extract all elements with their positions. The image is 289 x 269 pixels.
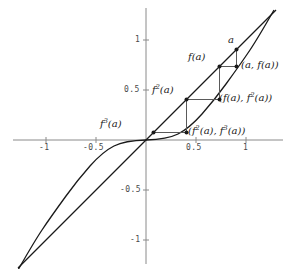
label-f-a: f(a) bbox=[188, 52, 205, 62]
point-a-f-a bbox=[235, 65, 239, 69]
y-tick-label-1: 1 bbox=[135, 36, 140, 44]
label-pair-f-a-close: (a)) bbox=[255, 92, 273, 103]
point-f-a-on-diagonal bbox=[218, 65, 222, 69]
y-tick-label-neg0-5: -0.5 bbox=[120, 186, 141, 194]
label-pair-f2-a-open: (f bbox=[188, 125, 196, 136]
x-tick-label-neg0-5: -0.5 bbox=[83, 144, 104, 152]
cobweb-diagram-figure: -1 -0.5 0.5 1 1 0.5 -0.5 -1 a f(a) f2(a)… bbox=[0, 0, 289, 269]
plot-canvas bbox=[0, 0, 289, 269]
label-f3-a-arg: (a) bbox=[108, 118, 122, 129]
point-f3-a-on-diagonal bbox=[152, 131, 156, 135]
label-f3-a: f3(a) bbox=[100, 119, 122, 129]
point-start-on-diagonal bbox=[235, 48, 239, 52]
x-tick-label-1: 1 bbox=[243, 144, 248, 152]
point-f2-a-on-diagonal bbox=[185, 98, 189, 102]
x-tick-label-0-5: 0.5 bbox=[186, 144, 202, 152]
y-tick-label-0-5: 0.5 bbox=[124, 86, 140, 94]
label-pair-f2-a-close: (a)) bbox=[228, 125, 246, 136]
label-pair-a: (a, f(a)) bbox=[241, 60, 279, 70]
label-f-a-arg: (a) bbox=[192, 51, 206, 62]
x-tick-label-neg1: -1 bbox=[39, 144, 49, 152]
label-pair-f2-a-mid: (a), f bbox=[200, 125, 224, 136]
label-pair-f2-a: (f2(a), f3(a)) bbox=[188, 126, 245, 136]
label-f2-a: f2(a) bbox=[152, 85, 174, 95]
y-tick-label-neg1: -1 bbox=[130, 236, 140, 244]
label-f2-a-arg: (a) bbox=[160, 84, 174, 95]
label-a: a bbox=[228, 35, 234, 45]
label-pair-f-a: (f(a), f2(a)) bbox=[219, 93, 272, 103]
label-pair-f-a-open: (f(a), f bbox=[219, 92, 250, 103]
